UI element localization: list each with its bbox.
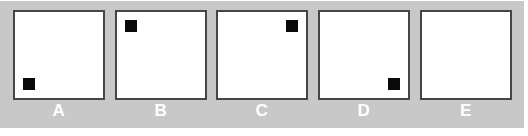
panel-a[interactable]	[13, 10, 105, 100]
panel-label-d: D	[318, 101, 410, 121]
marker-square-icon	[125, 20, 137, 32]
panel-label-e: E	[420, 101, 512, 121]
marker-square-icon	[286, 20, 298, 32]
panel-d[interactable]	[318, 10, 410, 100]
panel-e[interactable]	[420, 10, 512, 100]
marker-square-icon	[23, 78, 35, 90]
marker-square-icon	[388, 78, 400, 90]
panel-label-a: A	[13, 101, 105, 121]
panel-b[interactable]	[115, 10, 207, 100]
panel-c[interactable]	[216, 10, 308, 100]
panel-label-b: B	[115, 101, 207, 121]
panel-label-c: C	[216, 101, 308, 121]
panel-series-figure: A B C D E	[0, 0, 528, 136]
